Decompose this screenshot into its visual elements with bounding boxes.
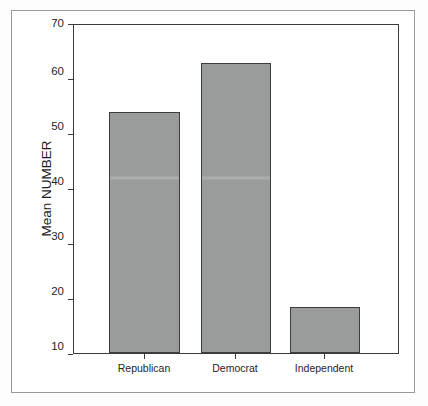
x-tick-mark-republican (144, 354, 145, 359)
y-tick-label-10: 10 (24, 341, 64, 353)
y-tick-label-40: 40 (24, 176, 64, 188)
y-tick-label-20: 20 (24, 286, 64, 298)
x-tick-mark-democrat (235, 354, 236, 359)
x-tick-label-independent: Independent (264, 363, 384, 374)
bar-democrat[interactable] (201, 63, 271, 353)
bar-republican[interactable] (109, 112, 180, 353)
x-tick-mark-independent (324, 354, 325, 359)
bar-chart: Mean NUMBER 10 20 30 40 50 60 70 (12, 11, 416, 394)
scanned-page: Mean NUMBER 10 20 30 40 50 60 70 (0, 0, 428, 406)
y-tick-mark-10 (68, 354, 73, 355)
bar-independent[interactable] (290, 307, 360, 353)
y-tick-label-50: 50 (24, 121, 64, 133)
y-axis-title: Mean NUMBER (39, 89, 54, 289)
y-tick-label-70: 70 (24, 18, 64, 30)
plot-area (73, 24, 399, 354)
y-tick-label-60: 60 (24, 66, 64, 78)
y-tick-label-30: 30 (24, 231, 64, 243)
figure-outer-frame: Mean NUMBER 10 20 30 40 50 60 70 (11, 10, 415, 393)
